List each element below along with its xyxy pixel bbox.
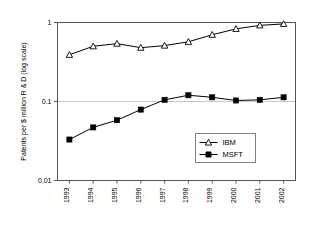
data-point-msft bbox=[257, 97, 262, 102]
data-point-msft bbox=[67, 137, 72, 142]
x-axis-tick-label: 2002 bbox=[278, 187, 285, 203]
data-point-msft bbox=[186, 93, 191, 98]
chart-container: 10.10.01Patents per $ million R & D (log… bbox=[0, 0, 315, 226]
legend-label-ibm: IBM bbox=[223, 138, 236, 147]
x-axis-tick-label: 1999 bbox=[206, 187, 213, 203]
data-point-msft bbox=[210, 95, 215, 100]
y-axis-title: Patents per $ million R & D (log scale) bbox=[20, 42, 28, 160]
y-axis-tick-label: 0.1 bbox=[42, 98, 52, 105]
x-axis-tick-label: 1995 bbox=[111, 187, 118, 203]
data-point-msft bbox=[114, 118, 119, 123]
legend-label-msft: MSFT bbox=[223, 150, 244, 159]
x-axis-tick-label: 1996 bbox=[135, 187, 142, 203]
x-axis-tick-label: 2000 bbox=[230, 187, 237, 203]
data-point-ibm bbox=[114, 40, 120, 46]
legend-marker-msft bbox=[206, 152, 211, 157]
data-point-msft bbox=[281, 95, 286, 100]
y-axis-tick-label: 1 bbox=[48, 19, 52, 26]
data-point-msft bbox=[91, 125, 96, 130]
x-axis-tick-label: 1993 bbox=[63, 187, 70, 203]
data-point-msft bbox=[138, 107, 143, 112]
x-axis-tick-label: 1994 bbox=[87, 187, 94, 203]
y-axis-tick-label: 0.01 bbox=[38, 177, 52, 184]
data-point-msft bbox=[162, 97, 167, 102]
data-point-msft bbox=[233, 98, 238, 103]
x-axis-tick-label: 1998 bbox=[182, 187, 189, 203]
log-line-chart: 10.10.01Patents per $ million R & D (log… bbox=[0, 0, 315, 226]
x-axis-tick-label: 2001 bbox=[254, 187, 261, 203]
x-axis-tick-label: 1997 bbox=[159, 187, 166, 203]
series-line-ibm bbox=[69, 24, 283, 55]
